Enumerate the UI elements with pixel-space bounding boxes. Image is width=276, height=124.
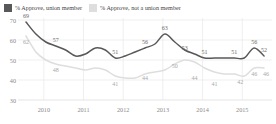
data-label: 56	[137, 39, 153, 45]
x-axis-tick: 2014	[188, 106, 218, 113]
data-label: 44	[137, 75, 153, 81]
legend-swatch-light-icon	[89, 4, 97, 12]
data-label: 50	[167, 63, 183, 69]
legend-item-union-member: % Approve, union member	[4, 4, 82, 12]
chart-legend: % Approve, union member % Approve, not a…	[4, 2, 181, 13]
y-axis-tick: 60	[2, 37, 16, 44]
y-axis-tick: 70	[2, 17, 16, 24]
plot-area	[0, 14, 276, 110]
x-axis-tick: 2013	[148, 106, 178, 113]
data-label: 51	[107, 49, 123, 55]
x-axis-tick: 2010	[29, 106, 59, 113]
legend-item-not-union-member: % Approve, not a union member	[89, 4, 181, 12]
data-label: 53	[177, 45, 193, 51]
legend-label-union-member: % Approve, union member	[15, 4, 82, 12]
data-label: 56	[246, 39, 262, 45]
y-axis-tick: 50	[2, 57, 16, 64]
data-label: 44	[187, 75, 203, 81]
chart-canvas	[0, 14, 276, 110]
data-label: 48	[48, 67, 64, 73]
data-label: 46	[258, 71, 274, 77]
chart-container: % Approve, union member % Approve, not a…	[0, 0, 276, 124]
data-label: 63	[157, 25, 173, 31]
legend-swatch-dark-icon	[4, 4, 12, 12]
legend-label-not-union-member: % Approve, not a union member	[100, 4, 181, 12]
data-label: 69	[18, 13, 34, 19]
data-label: 42	[232, 79, 248, 85]
x-axis-tick: 2011	[69, 106, 99, 113]
y-axis-tick: 30	[2, 97, 16, 104]
data-label: 51	[197, 49, 213, 55]
data-label: 62	[18, 39, 34, 45]
data-label: 51	[226, 49, 242, 55]
y-axis-tick: 40	[2, 77, 16, 84]
data-label: 41	[206, 81, 222, 87]
data-label: 57	[48, 37, 64, 43]
x-axis-tick: 2015	[227, 106, 257, 113]
data-label: 41	[107, 81, 123, 87]
data-label: 52	[256, 47, 272, 53]
x-axis-tick: 2012	[108, 106, 138, 113]
